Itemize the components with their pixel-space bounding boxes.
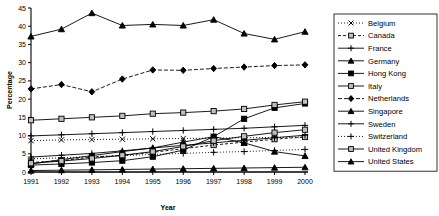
series-line-germany <box>31 13 305 39</box>
marker-square <box>242 106 247 111</box>
marker-square <box>150 149 155 154</box>
y-tick-label: 0 <box>22 169 26 176</box>
marker-diamond <box>211 65 217 71</box>
x-tick-label: 1992 <box>54 178 70 185</box>
marker-square <box>120 113 125 118</box>
marker-square <box>272 130 277 135</box>
x-tick-label: 1993 <box>84 178 100 185</box>
marker-square <box>349 33 354 38</box>
legend-label-switzerland: Switzerland <box>368 132 407 141</box>
marker-diamond <box>150 67 156 73</box>
marker-square <box>211 138 216 143</box>
marker-diamond <box>302 62 308 68</box>
y-tick-label: 10 <box>18 132 26 139</box>
legend-label-singapore: Singapore <box>368 107 403 116</box>
x-tick-label: 1994 <box>115 178 131 185</box>
legend-label-sweden: Sweden <box>368 120 395 129</box>
x-tick-label: 1996 <box>175 178 191 185</box>
y-tick-label: 30 <box>18 59 26 66</box>
marker-square <box>302 99 307 104</box>
series-line-italy <box>31 102 305 121</box>
marker-square <box>28 161 33 166</box>
marker-square <box>349 147 354 152</box>
legend-label-france: France <box>368 44 392 53</box>
chart-container: 0510152025303540451991199219931994199519… <box>0 0 439 216</box>
marker-square <box>302 127 307 132</box>
y-tick-label: 20 <box>18 96 26 103</box>
marker-diamond <box>89 89 95 95</box>
marker-triangle <box>241 31 247 37</box>
y-tick-label: 45 <box>18 5 26 12</box>
x-axis-title: Year <box>161 204 176 211</box>
marker-square <box>181 110 186 115</box>
marker-diamond <box>119 76 125 82</box>
marker-square <box>349 71 354 76</box>
legend-label-belgium: Belgium <box>368 19 395 28</box>
y-axis-title: Percentage <box>6 71 14 109</box>
y-tick-label: 25 <box>18 77 26 84</box>
marker-square <box>59 116 64 121</box>
y-tick-label: 35 <box>18 41 26 48</box>
marker-diamond <box>272 62 278 68</box>
marker-square <box>120 153 125 158</box>
marker-triangle <box>58 26 64 32</box>
marker-triangle <box>302 29 308 35</box>
marker-square <box>211 109 216 114</box>
marker-triangle <box>89 10 95 16</box>
legend-label-netherlands: Netherlands <box>368 94 409 103</box>
marker-square <box>181 144 186 149</box>
marker-square <box>349 84 354 89</box>
marker-square <box>242 134 247 139</box>
marker-square <box>89 156 94 161</box>
series-line-united-states <box>31 167 305 170</box>
x-tick-label: 1991 <box>23 178 39 185</box>
marker-diamond <box>59 81 65 87</box>
legend-label-canada: Canada <box>368 31 395 40</box>
series-line-canada <box>31 137 305 163</box>
x-tick-label: 1997 <box>206 178 222 185</box>
y-tick-label: 40 <box>18 23 26 30</box>
marker-diamond <box>28 86 34 92</box>
marker-square <box>272 102 277 107</box>
marker-square <box>242 116 247 121</box>
legend-label-italy: Italy <box>368 82 382 91</box>
marker-square <box>28 118 33 123</box>
marker-square <box>120 158 125 163</box>
x-tick-label: 1995 <box>145 178 161 185</box>
marker-square <box>150 111 155 116</box>
marker-diamond <box>241 64 247 70</box>
marker-diamond <box>180 67 186 73</box>
marker-square <box>59 158 64 163</box>
series-line-netherlands <box>31 65 305 92</box>
legend-label-germany: Germany <box>368 57 399 66</box>
x-tick-label: 2000 <box>297 178 313 185</box>
x-tick-label: 1999 <box>267 178 283 185</box>
y-tick-label: 15 <box>18 114 26 121</box>
y-tick-label: 5 <box>22 150 26 157</box>
marker-square <box>89 115 94 120</box>
marker-triangle <box>211 17 217 23</box>
legend-label-united-states: United States <box>368 157 414 166</box>
line-chart: 0510152025303540451991199219931994199519… <box>0 0 439 216</box>
x-tick-label: 1998 <box>236 178 252 185</box>
legend-label-hong-kong: Hong Kong <box>368 69 406 78</box>
legend-label-united-kingdom: United Kingdom <box>368 145 422 154</box>
